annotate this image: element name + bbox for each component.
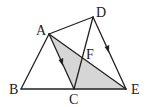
geometry-diagram <box>0 0 149 107</box>
segment-ad <box>49 17 93 34</box>
label-d: D <box>96 6 106 20</box>
parallel-arrow-de-icon <box>105 45 110 53</box>
label-e: E <box>131 83 140 97</box>
label-c: C <box>69 93 78 107</box>
parallel-arrow-ac-icon <box>59 58 64 66</box>
label-b: B <box>9 83 18 97</box>
label-f: F <box>86 48 94 62</box>
label-a: A <box>36 24 46 38</box>
segment-ab <box>21 34 49 89</box>
